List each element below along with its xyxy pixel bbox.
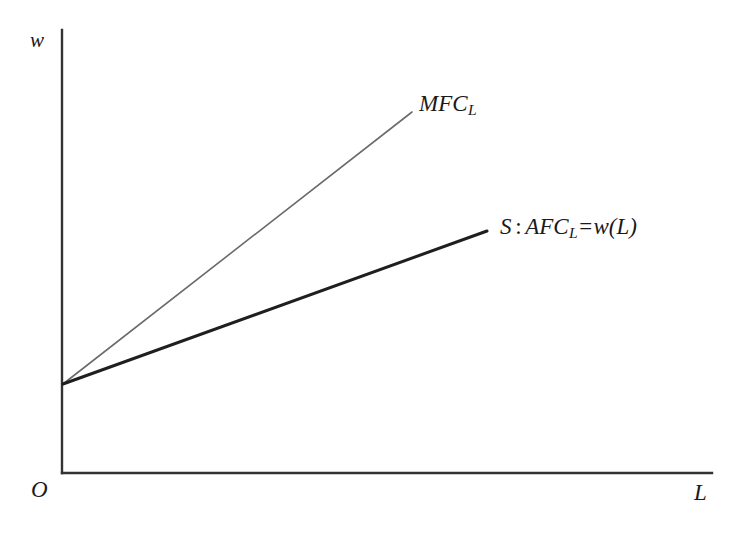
- x-axis-label: L: [694, 481, 707, 504]
- plot-canvas: [0, 0, 741, 538]
- mfc-label-main: MFC: [419, 91, 468, 116]
- mfc-curve-label: MFCL: [419, 92, 477, 118]
- supply-label-paren-close: ): [629, 214, 637, 239]
- supply-curve-label: S:AFCL=w(L): [500, 215, 637, 241]
- supply-label-arg: L: [616, 214, 629, 239]
- supply-label-equals: =: [578, 214, 594, 239]
- monopsony-labor-market-figure: w O L MFCL S:AFCL=w(L): [0, 0, 741, 538]
- mfc-curve: [63, 112, 412, 384]
- origin-label: O: [31, 478, 48, 501]
- supply-label-subscript: L: [569, 224, 578, 241]
- y-axis-label: w: [30, 30, 44, 51]
- mfc-label-subscript: L: [468, 101, 477, 118]
- supply-label-s: S: [500, 214, 512, 239]
- supply-label-w: w: [593, 214, 608, 239]
- supply-label-colon: :: [512, 214, 526, 239]
- supply-label-afc: AFC: [525, 214, 568, 239]
- supply-afc-curve: [63, 231, 487, 384]
